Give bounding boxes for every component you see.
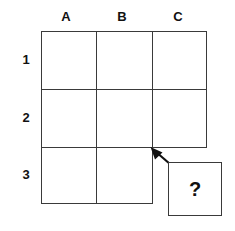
grid-cell-a1[interactable] bbox=[41, 31, 96, 89]
grid-cell-b3[interactable] bbox=[96, 147, 152, 204]
grid-hline-bottom bbox=[41, 203, 153, 204]
grid-cell-b1[interactable] bbox=[96, 31, 152, 89]
grid-vline-right bbox=[206, 31, 207, 148]
grid-cell-b2[interactable] bbox=[96, 89, 152, 147]
column-header-a: A bbox=[56, 9, 76, 25]
row-header-1: 1 bbox=[16, 52, 36, 68]
grid-hline-row1-row2 bbox=[41, 89, 207, 90]
grid-vline-b-c bbox=[152, 31, 153, 204]
grid-hline-top bbox=[41, 31, 207, 32]
answer-cell[interactable]: ? bbox=[168, 162, 222, 216]
grid-cell-c2[interactable] bbox=[152, 89, 207, 147]
grid-vline-a-b bbox=[96, 31, 97, 204]
grid-puzzle-figure: A B C 1 2 3 ? bbox=[0, 0, 235, 231]
grid-cell-a3[interactable] bbox=[41, 147, 96, 204]
row-header-3: 3 bbox=[16, 167, 36, 183]
grid-hline-row2-row3 bbox=[41, 147, 207, 148]
column-header-c: C bbox=[168, 9, 188, 25]
column-header-b: B bbox=[112, 9, 132, 25]
answer-cell-question-mark: ? bbox=[189, 179, 201, 199]
grid-vline-left bbox=[41, 31, 42, 204]
row-header-2: 2 bbox=[16, 110, 36, 126]
grid-cell-c1[interactable] bbox=[152, 31, 207, 89]
grid-cell-a2[interactable] bbox=[41, 89, 96, 147]
